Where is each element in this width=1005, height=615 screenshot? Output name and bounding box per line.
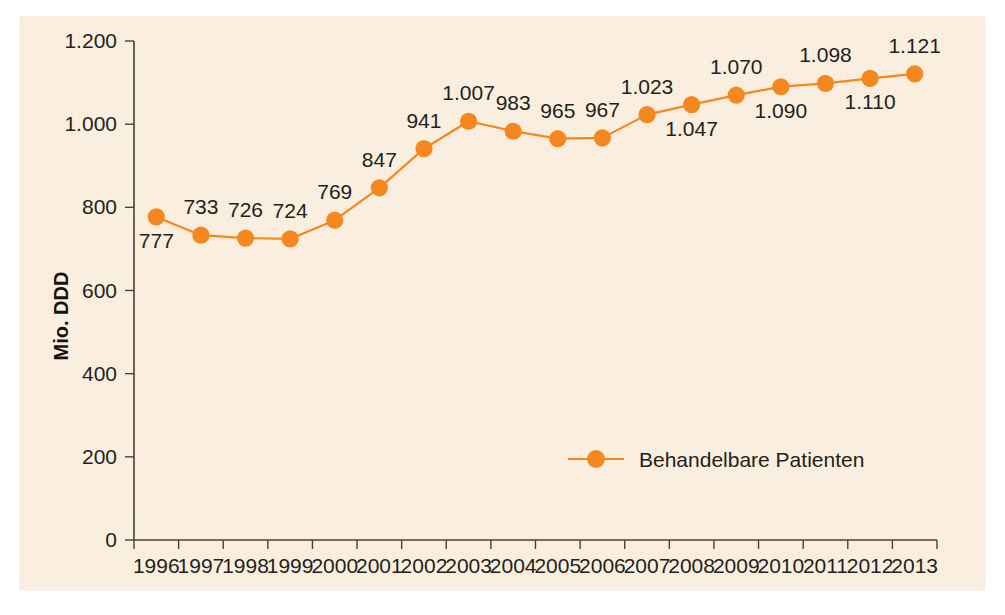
chart-figure: 02004006008001.0001.200 Mio. DDD 1996199… [0, 0, 1005, 615]
series-markers [148, 65, 924, 247]
x-tick-label: 2013 [891, 554, 938, 577]
x-axis: 1996199719981999200020012002200320042005… [133, 540, 938, 577]
data-point-label: 733 [183, 195, 218, 218]
y-tick-label: 800 [82, 195, 117, 218]
line-chart-svg: 02004006008001.0001.200 Mio. DDD 1996199… [20, 16, 985, 589]
x-tick-label: 2002 [401, 554, 448, 577]
data-point-marker [906, 65, 923, 82]
x-tick-label: 2003 [445, 554, 492, 577]
x-tick-label: 2007 [624, 554, 671, 577]
y-tick-label: 600 [82, 279, 117, 302]
data-point-marker [728, 86, 745, 103]
data-series-behandelbare-patienten: 7777337267247698479411.0079839659671.023… [139, 34, 941, 252]
data-point-marker [638, 106, 655, 123]
y-tick-label: 400 [82, 362, 117, 385]
chart-panel: 02004006008001.0001.200 Mio. DDD 1996199… [20, 16, 985, 589]
data-point-label: 967 [585, 98, 620, 121]
x-tick-label: 2001 [356, 554, 403, 577]
x-tick-label: 2006 [579, 554, 626, 577]
data-point-label: 847 [362, 148, 397, 171]
series-point-labels: 7777337267247698479411.0079839659671.023… [139, 34, 941, 252]
data-point-label: 726 [228, 198, 263, 221]
data-point-label: 724 [273, 199, 308, 222]
y-tick-label: 1.200 [64, 29, 117, 52]
x-tick-label: 1996 [133, 554, 180, 577]
data-point-label: 1.007 [442, 81, 495, 104]
x-tick-label: 1997 [178, 554, 225, 577]
x-tick-label: 2012 [847, 554, 894, 577]
data-point-label: 1.121 [888, 34, 941, 57]
data-point-label: 1.070 [710, 55, 763, 78]
data-point-marker [549, 130, 566, 147]
data-point-marker [505, 123, 522, 140]
x-tick-label: 2004 [490, 554, 537, 577]
data-point-marker [415, 140, 432, 157]
x-tick-label: 1999 [267, 554, 314, 577]
data-point-label: 965 [540, 99, 575, 122]
y-tick-label: 0 [105, 528, 117, 551]
y-axis-ticks [125, 41, 134, 540]
data-point-marker [817, 75, 834, 92]
data-point-marker [683, 96, 700, 113]
x-tick-label: 2000 [311, 554, 358, 577]
x-tick-label: 2008 [668, 554, 715, 577]
legend-entry-label: Behandelbare Patienten [639, 448, 864, 471]
data-point-marker [460, 113, 477, 130]
legend-marker-icon [587, 450, 605, 468]
x-tick-label: 2005 [534, 554, 581, 577]
y-axis-tick-labels: 02004006008001.0001.200 [64, 29, 117, 551]
x-axis-ticks [134, 540, 937, 549]
data-point-label: 777 [139, 229, 174, 252]
x-axis-tick-labels: 1996199719981999200020012002200320042005… [133, 554, 938, 577]
y-axis-title: Mio. DDD [50, 272, 72, 361]
data-point-marker [282, 230, 299, 247]
chart-legend: Behandelbare Patienten [568, 448, 864, 471]
data-point-label: 1.110 [845, 90, 896, 113]
data-point-label: 769 [317, 180, 352, 203]
x-tick-label: 2011 [803, 554, 848, 577]
data-point-label: 983 [496, 91, 531, 114]
data-point-marker [371, 179, 388, 196]
data-point-label: 941 [406, 109, 441, 132]
data-point-marker [192, 227, 209, 244]
data-point-marker [861, 70, 878, 87]
x-tick-label: 2010 [758, 554, 805, 577]
data-point-label: 1.090 [755, 99, 808, 122]
x-tick-label: 1998 [222, 554, 269, 577]
data-point-marker [772, 78, 789, 95]
data-point-label: 1.098 [799, 43, 852, 66]
y-axis: 02004006008001.0001.200 Mio. DDD [50, 29, 134, 551]
y-tick-label: 1.000 [64, 112, 117, 135]
data-point-marker [594, 129, 611, 146]
data-point-marker [148, 208, 165, 225]
data-point-label: 1.047 [665, 117, 718, 140]
y-tick-label: 200 [82, 445, 117, 468]
data-point-label: 1.023 [621, 75, 674, 98]
x-tick-label: 2009 [713, 554, 760, 577]
data-point-marker [326, 212, 343, 229]
data-point-marker [237, 230, 254, 247]
